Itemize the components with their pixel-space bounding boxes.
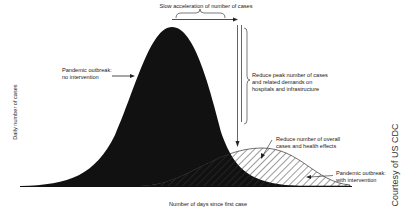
with-intervention-label: Pandemic outbreak: with intervention — [335, 170, 387, 183]
slow-acceleration-brace — [176, 9, 225, 18]
reduce-peak-bracket — [244, 28, 250, 124]
slow-acceleration-label: Slow acceleration of number of cases — [160, 3, 253, 9]
x-axis-label: Number of days since first case — [169, 201, 247, 207]
credit-label: Courtesy of US CDC — [390, 123, 400, 207]
no-intervention-label: Pandemic outbreak: no intervention — [62, 67, 113, 80]
y-axis-label: Daily number of cases — [12, 84, 18, 140]
flatten-the-curve-chart: Slow acceleration of number of cases Red… — [0, 0, 407, 221]
arrowhead-icon — [233, 18, 238, 22]
reduce-peak-label: Reduce peak number of cases and related … — [252, 72, 329, 92]
arrowhead-icon — [236, 141, 240, 147]
reduce-overall-label: Reduce number of overall cases and healt… — [276, 136, 342, 149]
arrowhead-icon — [130, 74, 135, 78]
